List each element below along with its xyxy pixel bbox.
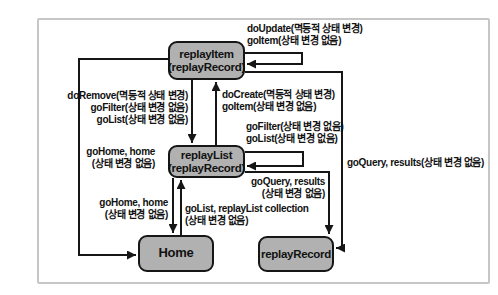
- edge-label-line: doRemove(멱등적 상태 변경): [38, 90, 188, 102]
- edge-label-line: goQuery, results: [225, 176, 325, 188]
- state-name: replayRecord: [261, 248, 331, 261]
- state-box-replayitem: replayItem (replayRecord): [168, 41, 245, 80]
- state-box-replaylist: replayList (replayRecord): [168, 145, 245, 178]
- edge-label-line: (상태 변경 없음): [185, 215, 309, 227]
- edge-label-replaylist-self: goFilter(상태 변경 없음) goList(상태 변경 없음): [246, 121, 343, 145]
- edge-label-replaylist-to-replayitem: doCreate(멱등적 상태 변경) goItem(상태 변경 없음): [222, 89, 335, 113]
- state-box-home: Home: [138, 235, 214, 272]
- edge-label-line: (상태 변경 없음): [68, 209, 168, 221]
- state-name: replayItem: [179, 48, 234, 61]
- edge-label-line: goHome, home: [68, 197, 168, 209]
- edge-label-line: doCreate(멱등적 상태 변경): [222, 89, 335, 101]
- state-name: replayList: [181, 149, 232, 162]
- edge-label-line: doUpdate(멱등적 상태 변경): [247, 23, 363, 35]
- arrow-replayitem-self-loop: [245, 53, 302, 64]
- edge-label-replayitem-self: doUpdate(멱등적 상태 변경) goItem(상태 변경 없음): [247, 23, 363, 47]
- edge-label-replayitem-to-replaylist: doRemove(멱등적 상태 변경) goFilter(상태 변경 없음) g…: [38, 90, 188, 126]
- edge-label-line: goHome, home: [55, 146, 155, 158]
- arrow-replaylist-self-loop: [245, 152, 303, 166]
- edge-label-replayitem-to-home: goHome, home (상태 변경 없음): [55, 146, 155, 170]
- state-box-replayrecord: replayRecord: [258, 236, 334, 272]
- edge-label-line: goItem(상태 변경 없음): [247, 35, 363, 47]
- edge-label-home-to-replaylist: goList, replayList collection (상태 변경 없음): [185, 203, 309, 227]
- edge-label-line: goFilter(상태 변경 없음): [246, 121, 343, 133]
- state-record-sub: (replayRecord): [168, 61, 245, 74]
- edge-label-replaylist-to-replayrecord: goQuery, results (상태 변경 없음): [225, 176, 325, 200]
- state-diagram: replayItem (replayRecord) replayList (re…: [0, 0, 498, 295]
- edge-label-line: goList, replayList collection: [185, 203, 309, 215]
- edge-label-line: goList(상태 변경 없음): [246, 133, 343, 145]
- edge-label-line: goList(상태 변경 없음): [38, 114, 188, 126]
- edge-label-replayitem-to-replayrecord: goQuery, results(상태 변경 없음): [347, 157, 484, 169]
- edge-label-line: goItem(상태 변경 없음): [222, 101, 335, 113]
- state-record-sub: (replayRecord): [168, 162, 245, 175]
- edge-label-line: goFilter(상태 변경 없음): [38, 102, 188, 114]
- edge-label-line: (상태 변경 없음): [225, 188, 325, 200]
- edge-label-replaylist-to-home: goHome, home (상태 변경 없음): [68, 197, 168, 221]
- edge-label-line: goQuery, results(상태 변경 없음): [347, 157, 484, 169]
- state-name: Home: [159, 247, 194, 260]
- edge-label-line: (상태 변경 없음): [55, 158, 155, 170]
